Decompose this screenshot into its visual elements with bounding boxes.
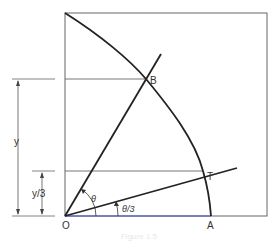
label-theta: θ [91,194,96,204]
figure-caption: Figure 1.5 [0,232,278,241]
label-y: y [14,136,19,147]
label-O: O [62,220,70,231]
line-OB [65,54,161,216]
arrowhead-icon [16,209,20,215]
label-T: T [207,171,213,182]
quadratrix-diagram: y y/3 B T O A θ θ/3 [0,0,278,244]
arrowhead-icon [40,209,44,215]
label-B: B [150,75,157,86]
quadratrix-curve [65,13,211,216]
arrowhead-icon [16,80,20,86]
label-theta-third: θ/3 [122,204,134,214]
label-A: A [207,220,214,231]
arrowhead-icon [81,189,86,194]
label-y-third: y/3 [32,188,46,199]
square-frame [65,13,267,216]
arrowhead-icon [40,172,44,178]
